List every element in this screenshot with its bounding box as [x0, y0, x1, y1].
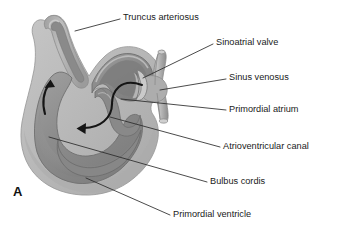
- label-truncus-arteriosus: Truncus arteriosus: [123, 12, 199, 22]
- sinus-venosus-inferior-opening: [159, 119, 167, 123]
- label-bulbus-cordis: Bulbus cordis: [210, 176, 266, 186]
- leader-line-sinus-venosus: [160, 79, 226, 90]
- heart-diagram-svg: Truncus arteriosus Sinoatrial valve Sinu…: [0, 0, 338, 229]
- label-primordial-atrium: Primordial atrium: [229, 104, 299, 114]
- leader-line-truncus-arteriosus: [75, 19, 120, 31]
- leader-line-primordial-ventricle: [86, 178, 170, 215]
- panel-letter-a: A: [13, 184, 23, 199]
- label-primordial-ventricle: Primordial ventricle: [173, 209, 251, 219]
- sinus-venosus-superior-opening: [158, 50, 165, 54]
- label-atrioventricular-canal: Atrioventricular canal: [223, 141, 309, 151]
- label-sinus-venosus: Sinus venosus: [229, 72, 289, 82]
- label-sinoatrial-valve: Sinoatrial valve: [216, 37, 278, 47]
- anatomical-figure-panel-a: Truncus arteriosus Sinoatrial valve Sinu…: [0, 0, 338, 229]
